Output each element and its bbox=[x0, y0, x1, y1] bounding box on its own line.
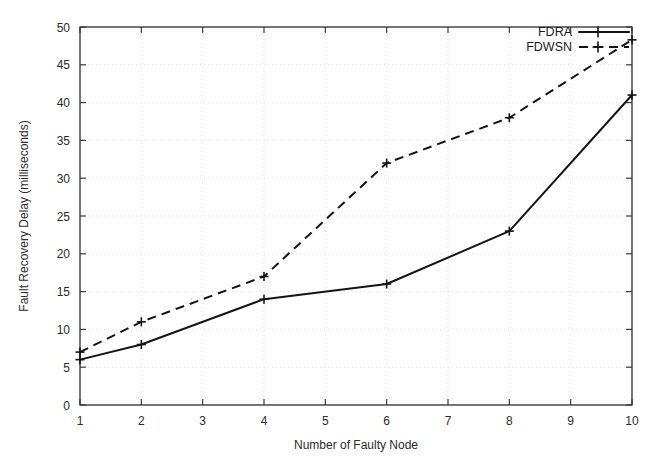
x-axis-tick-labels: 12345678910 bbox=[77, 414, 639, 428]
data-point-marker bbox=[137, 317, 146, 326]
data-point-marker bbox=[76, 348, 85, 357]
legend-marker-fdra bbox=[593, 27, 604, 38]
y-tick-label: 25 bbox=[57, 210, 71, 224]
y-tick-label: 5 bbox=[63, 361, 70, 375]
data-point-marker bbox=[260, 295, 269, 304]
y-tick-label: 0 bbox=[63, 399, 70, 413]
data-series-group bbox=[76, 35, 637, 364]
y-tick-label: 15 bbox=[57, 285, 71, 299]
x-tick-label: 9 bbox=[567, 414, 574, 428]
x-tick-label: 5 bbox=[322, 414, 329, 428]
x-tick-label: 2 bbox=[138, 414, 145, 428]
y-tick-label: 10 bbox=[57, 323, 71, 337]
y-axis-title: Fault Recovery Delay (milliseconds) bbox=[17, 120, 31, 311]
x-tick-label: 6 bbox=[383, 414, 390, 428]
x-tick-label: 3 bbox=[199, 414, 206, 428]
series-fdwsn bbox=[76, 35, 637, 356]
y-tick-label: 50 bbox=[57, 21, 71, 35]
data-point-marker bbox=[382, 280, 391, 289]
grid-lines bbox=[80, 27, 632, 405]
legend-marker-fdwsn bbox=[593, 42, 604, 53]
x-tick-label: 8 bbox=[506, 414, 513, 428]
y-tick-label: 30 bbox=[57, 172, 71, 186]
series-line-fdwsn bbox=[80, 40, 632, 352]
x-axis-title: Number of Faulty Node bbox=[294, 438, 418, 452]
x-tick-label: 7 bbox=[445, 414, 452, 428]
legend-label-fdwsn: FDWSN bbox=[526, 40, 572, 54]
y-tick-label: 45 bbox=[57, 58, 71, 72]
y-tick-label: 20 bbox=[57, 247, 71, 261]
series-line-fdra bbox=[80, 95, 632, 360]
chart-container: 05101520253035404550 12345678910 Fault R… bbox=[0, 0, 667, 471]
y-tick-label: 40 bbox=[57, 96, 71, 110]
legend-label-fdra: FDRA bbox=[538, 25, 573, 39]
x-tick-label: 4 bbox=[261, 414, 268, 428]
series-fdra bbox=[76, 91, 637, 365]
legend-sample-fdwsn bbox=[579, 42, 629, 53]
x-tick-label: 10 bbox=[625, 414, 639, 428]
legend-sample-fdra bbox=[579, 27, 629, 38]
x-tick-label: 1 bbox=[77, 414, 84, 428]
y-axis-tick-labels: 05101520253035404550 bbox=[57, 21, 71, 413]
data-point-marker bbox=[137, 340, 146, 349]
chart-legend: FDRA FDWSN bbox=[526, 25, 629, 54]
y-tick-label: 35 bbox=[57, 134, 71, 148]
line-chart: 05101520253035404550 12345678910 Fault R… bbox=[0, 0, 667, 471]
